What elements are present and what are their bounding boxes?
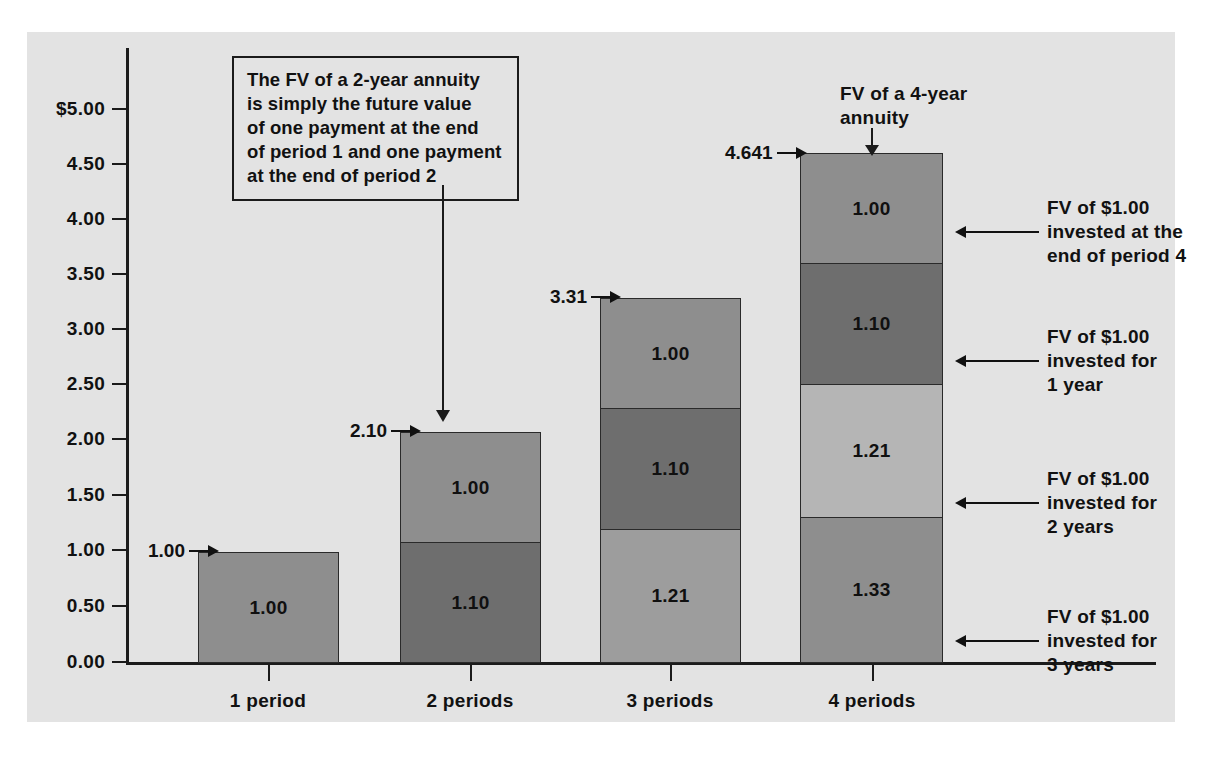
bar-3-total-callout: 3.31 (550, 286, 621, 308)
bar-3-segment-3-label: 1.21 (651, 585, 689, 607)
bar-1-total-label: 1.00 (148, 540, 185, 562)
arrow-left-icon (955, 634, 1039, 648)
y-tick-label-2.50: 2.50 (67, 373, 105, 395)
y-tick-4.50 (112, 163, 126, 165)
y-tick-5.00 (112, 108, 126, 110)
side-annotation-2-years: FV of $1.00 invested for 2 years (955, 467, 1157, 539)
bar-4-segment-2: 1.10 (800, 263, 943, 385)
bar-4-segment-4-label: 1.33 (852, 579, 890, 601)
top-annotation-arrowhead-icon (865, 145, 879, 156)
callout-leader-line (442, 185, 444, 413)
side-annotation-1-year-text: FV of $1.00 invested for 1 year (1047, 325, 1157, 397)
bar-4-total-label: 4.641 (725, 142, 773, 164)
bar-2-segment-1-label: 1.00 (451, 477, 489, 499)
y-tick-1.50 (112, 494, 126, 496)
callout-box: The FV of a 2-year annuity is simply the… (232, 56, 519, 201)
y-tick-0.00 (112, 661, 126, 663)
bar-1-segment-1-label: 1.00 (249, 597, 287, 619)
bar-2-segment-1: 1.00 (400, 432, 541, 543)
y-tick-label-0.00: 0.00 (67, 651, 105, 673)
y-tick-3.00 (112, 328, 126, 330)
chart-figure: $5.00 4.50 4.00 3.50 3.00 2.50 2.00 1.50… (0, 0, 1217, 757)
bar-2-total-label: 2.10 (350, 420, 387, 442)
arrow-left-icon (955, 354, 1039, 368)
arrow-right-icon (391, 425, 421, 437)
y-tick-4.00 (112, 218, 126, 220)
y-tick-2.50 (112, 383, 126, 385)
callout-leader-arrowhead-icon (436, 410, 450, 422)
bar-4-segment-3: 1.21 (800, 384, 943, 518)
arrow-right-icon (777, 147, 807, 159)
top-annotation-text: FV of a 4-year annuity (840, 82, 967, 130)
bar-3-segment-1-label: 1.00 (651, 343, 689, 365)
y-tick-label-4.00: 4.00 (67, 208, 105, 230)
bar-4-segment-3-label: 1.21 (852, 440, 890, 462)
bar-3-segment-2-label: 1.10 (651, 458, 689, 480)
x-label-1-period: 1 period (230, 690, 306, 712)
y-tick-label-1.50: 1.50 (67, 484, 105, 506)
side-annotation-3-years: FV of $1.00 invested for 3 years (955, 605, 1157, 677)
bar-2-total-callout: 2.10 (350, 420, 421, 442)
top-annotation: FV of a 4-year annuity (840, 82, 967, 130)
side-annotation-2-years-text: FV of $1.00 invested for 2 years (1047, 467, 1157, 539)
arrow-left-icon (955, 225, 1039, 239)
bar-4-segment-4: 1.33 (800, 517, 943, 663)
y-tick-0.50 (112, 605, 126, 607)
y-tick-label-2.00: 2.00 (67, 428, 105, 450)
bar-1-total-callout: 1.00 (148, 540, 219, 562)
y-axis-line (126, 48, 129, 665)
y-tick-label-4.50: 4.50 (67, 153, 105, 175)
y-tick-3.50 (112, 273, 126, 275)
side-annotation-period-4-text: FV of $1.00 invested at the end of perio… (1047, 196, 1186, 268)
bar-2-segment-2: 1.10 (400, 542, 541, 663)
arrow-right-icon (189, 545, 219, 557)
y-tick-label-3.50: 3.50 (67, 263, 105, 285)
x-tick-4 (872, 665, 874, 681)
side-annotation-3-years-text: FV of $1.00 invested for 3 years (1047, 605, 1157, 677)
callout-box-text: The FV of a 2-year annuity is simply the… (247, 68, 505, 188)
side-annotation-period-4: FV of $1.00 invested at the end of perio… (955, 196, 1186, 268)
bar-4-segment-1-label: 1.00 (852, 198, 890, 220)
y-tick-label-5.00: $5.00 (56, 98, 105, 120)
bar-4-segment-2-label: 1.10 (852, 313, 890, 335)
x-tick-2 (470, 665, 472, 681)
x-label-2-periods: 2 periods (426, 690, 513, 712)
x-label-3-periods: 3 periods (626, 690, 713, 712)
bar-1-segment-1: 1.00 (198, 552, 339, 663)
side-annotation-1-year: FV of $1.00 invested for 1 year (955, 325, 1157, 397)
bar-3-total-label: 3.31 (550, 286, 587, 308)
bar-2-segment-2-label: 1.10 (451, 592, 489, 614)
bar-3-segment-1: 1.00 (600, 298, 741, 409)
y-tick-label-1.00: 1.00 (67, 539, 105, 561)
y-tick-label-3.00: 3.00 (67, 318, 105, 340)
bar-4-total-callout: 4.641 (725, 142, 807, 164)
x-label-4-periods: 4 periods (828, 690, 915, 712)
bar-3-segment-2: 1.10 (600, 408, 741, 530)
x-tick-1 (268, 665, 270, 681)
bar-3-segment-3: 1.21 (600, 529, 741, 663)
arrow-left-icon (955, 496, 1039, 510)
bar-4-segment-1: 1.00 (800, 153, 943, 264)
x-tick-3 (670, 665, 672, 681)
y-tick-2.00 (112, 438, 126, 440)
y-tick-1.00 (112, 549, 126, 551)
arrow-right-icon (591, 291, 621, 303)
y-tick-label-0.50: 0.50 (67, 595, 105, 617)
